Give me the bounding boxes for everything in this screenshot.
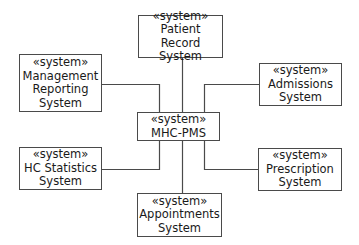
node-prescription: «system» Prescription System — [258, 148, 342, 191]
stereotype-label: «system» — [33, 148, 89, 162]
stereotype-label: «system» — [272, 149, 328, 163]
node-name: MHC-PMS — [151, 127, 206, 141]
node-management-reporting: «system» Management Reporting System — [19, 54, 102, 112]
connector-admissions — [205, 85, 260, 113]
stereotype-label: «system» — [152, 195, 208, 209]
stereotype-label: «system» — [151, 113, 207, 127]
stereotype-label: «system» — [273, 64, 329, 78]
stereotype-label: «system» — [33, 56, 89, 70]
node-patient-record: «system» Patient Record System — [138, 15, 223, 58]
node-name: Admissions System — [268, 78, 333, 105]
node-mhc-pms: «system» MHC-PMS — [137, 112, 220, 141]
node-admissions: «system» Admissions System — [259, 63, 342, 106]
node-appointments: «system» Appointments System — [137, 193, 222, 237]
connector-management-reporting — [102, 85, 160, 113]
connector-hc-statistics — [102, 141, 160, 170]
connector-prescription — [205, 141, 259, 170]
node-name: Appointments System — [139, 208, 220, 235]
system-context-diagram: «system» Patient Record System «system» … — [0, 0, 359, 245]
node-name: HC Statistics System — [24, 162, 97, 189]
node-hc-statistics: «system» HC Statistics System — [19, 147, 102, 190]
stereotype-label: «system» — [153, 10, 209, 24]
node-name: Management Reporting System — [23, 70, 99, 111]
node-name: Patient Record System — [139, 23, 222, 64]
node-name: Prescription System — [266, 163, 334, 190]
